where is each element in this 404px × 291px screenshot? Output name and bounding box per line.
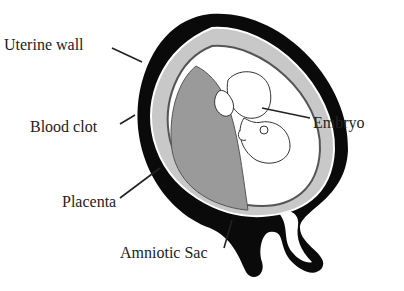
uterus-diagram: Uterine wall Blood clot Placenta Amnioti…	[0, 0, 404, 291]
label-blood-clot: Blood clot	[30, 118, 98, 135]
label-placenta: Placenta	[62, 193, 116, 210]
label-amniotic-sac: Amniotic Sac	[120, 244, 208, 261]
label-uterine-wall: Uterine wall	[4, 36, 84, 53]
label-embryo: Embryo	[313, 114, 365, 132]
